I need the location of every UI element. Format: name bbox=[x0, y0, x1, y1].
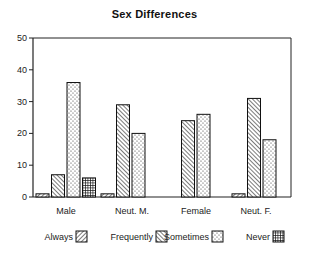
bar-never-male bbox=[83, 178, 96, 197]
category-label: Female bbox=[181, 206, 211, 216]
bar-frequently-neut-f bbox=[248, 98, 261, 197]
bar-always-neut-m bbox=[101, 194, 114, 197]
legend-swatch-always bbox=[76, 231, 87, 242]
bar-sometimes-male bbox=[67, 83, 80, 197]
bar-frequently-neut-m bbox=[117, 105, 130, 197]
legend-swatch-never bbox=[273, 231, 284, 242]
bars bbox=[36, 83, 276, 197]
y-tick-label: 30 bbox=[17, 97, 27, 107]
legend: AlwaysFrequentlySometimesNever bbox=[44, 231, 284, 242]
y-tick-label: 0 bbox=[22, 192, 27, 202]
category-label: Neut. F. bbox=[240, 206, 271, 216]
bar-frequently-female bbox=[182, 121, 195, 197]
bar-sometimes-female bbox=[197, 114, 210, 197]
legend-label: Frequently bbox=[110, 232, 153, 242]
legend-label: Never bbox=[246, 232, 270, 242]
legend-label: Always bbox=[44, 232, 73, 242]
bar-sometimes-neut-m bbox=[132, 133, 145, 197]
y-axis-ticks: 01020304050 bbox=[17, 33, 33, 202]
legend-label: Sometimes bbox=[164, 232, 210, 242]
y-tick-label: 40 bbox=[17, 65, 27, 75]
legend-swatch-sometimes bbox=[212, 231, 223, 242]
bar-sometimes-neut-f bbox=[263, 140, 276, 197]
bar-always-neut-f bbox=[232, 194, 245, 197]
category-label: Male bbox=[56, 206, 76, 216]
y-tick-label: 50 bbox=[17, 33, 27, 43]
category-label: Neut. M. bbox=[115, 206, 149, 216]
bar-frequently-male bbox=[52, 175, 65, 197]
y-tick-label: 20 bbox=[17, 128, 27, 138]
bar-always-male bbox=[36, 194, 49, 197]
bar-chart: 01020304050 MaleNeut. M.FemaleNeut. F. A… bbox=[0, 0, 309, 257]
y-tick-label: 10 bbox=[17, 160, 27, 170]
category-labels: MaleNeut. M.FemaleNeut. F. bbox=[56, 206, 271, 216]
